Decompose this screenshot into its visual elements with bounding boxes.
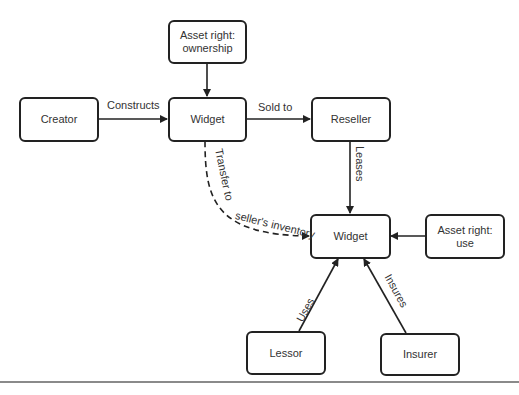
node-asset-right-ownership: Asset right: ownership	[168, 20, 247, 64]
edge-label-constructs: Constructs	[107, 99, 160, 111]
edge-label-sold-to: Sold to	[258, 101, 292, 113]
bottom-divider	[0, 381, 519, 383]
node-widget-top: Widget	[168, 97, 247, 142]
node-asset-right-use: Asset right: use	[425, 214, 505, 259]
node-lessor: Lessor	[246, 331, 326, 375]
node-label: Insurer	[403, 348, 437, 361]
node-label-line2: use	[437, 237, 492, 250]
node-insurer: Insurer	[380, 333, 460, 376]
node-label: Reseller	[331, 113, 371, 126]
node-label: Widget	[190, 113, 224, 126]
node-label: Creator	[41, 113, 78, 126]
node-label: Widget	[333, 230, 367, 243]
node-label-line2: ownership	[180, 42, 235, 55]
node-label: Lessor	[269, 347, 302, 360]
edge-label-leases: Leases	[354, 146, 366, 181]
node-reseller: Reseller	[311, 97, 391, 142]
node-label-line1: Asset right:	[180, 29, 235, 42]
node-creator: Creator	[19, 97, 99, 142]
node-label-line1: Asset right:	[437, 224, 492, 237]
node-widget-bottom: Widget	[310, 214, 391, 259]
